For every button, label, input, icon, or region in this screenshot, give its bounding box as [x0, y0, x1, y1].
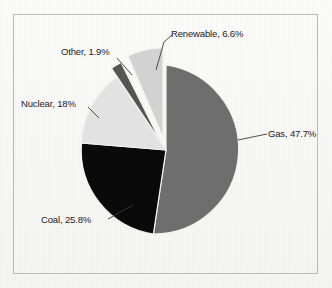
pie-plot-area: Renewable, 6.6% Gas, 47.7% Nuclear, 18% … [0, 0, 332, 288]
pie-chart-figure: Renewable, 6.6% Gas, 47.7% Nuclear, 18% … [0, 0, 332, 288]
slice-label-coal: Coal, 25.8% [41, 214, 91, 225]
pie-slice-coal[interactable] [81, 143, 166, 234]
slice-label-other: Other, 1.9% [61, 46, 110, 57]
slice-label-renewable: Renewable, 6.6% [171, 28, 243, 39]
pie-svg [0, 0, 332, 288]
slice-label-gas: Gas, 47.7% [268, 128, 316, 139]
slice-label-nuclear: Nuclear, 18% [21, 98, 76, 109]
leader-line-gas [238, 134, 267, 140]
